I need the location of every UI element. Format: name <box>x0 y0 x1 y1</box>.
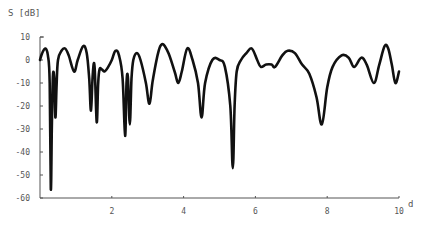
series-line-s <box>40 44 399 190</box>
y-tick-label: -30 <box>16 125 31 134</box>
y-tick-label: -40 <box>16 148 31 157</box>
y-tick-label: -50 <box>16 171 31 180</box>
x-axis-ticks: 246810 <box>109 196 404 216</box>
y-axis-title: S [dB] <box>8 8 41 18</box>
y-tick-label: -60 <box>16 194 31 203</box>
x-tick-label: 4 <box>181 207 186 216</box>
x-tick-label: 8 <box>325 207 330 216</box>
x-axis-title: d <box>408 199 413 209</box>
y-tick-label: 0 <box>25 56 30 65</box>
x-tick-label: 6 <box>253 207 258 216</box>
x-tick-label: 2 <box>109 207 114 216</box>
y-tick-label: -10 <box>16 79 31 88</box>
y-tick-label: -20 <box>16 102 31 111</box>
y-axis-ticks: 100-10-20-30-40-50-60 <box>16 33 43 203</box>
line-chart: S [dB] 100-10-20-30-40-50-60 246810 d <box>0 0 426 228</box>
y-tick-label: 10 <box>20 33 30 42</box>
x-tick-label: 10 <box>394 207 404 216</box>
